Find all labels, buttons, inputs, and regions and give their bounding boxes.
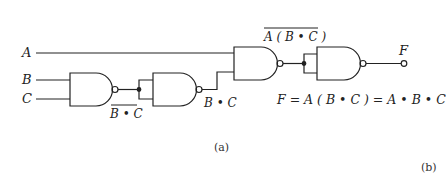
- gate3-output-label: A ( B • C ): [264, 31, 326, 43]
- output-equation: F = A ( B • C ) = A • B • C: [277, 94, 446, 107]
- caption-a: (a): [214, 142, 229, 153]
- nand-gate-3: [234, 47, 278, 80]
- gate1-output-label: B • C: [110, 108, 143, 120]
- input-label-b: B: [22, 73, 32, 86]
- nand-gate-4: [317, 47, 361, 80]
- caption-b: (b): [421, 162, 437, 173]
- nand-gate-1: [70, 73, 113, 106]
- wire-g2-out: [202, 72, 234, 90]
- input-label-a: A: [22, 46, 31, 59]
- nand-gate-2: [153, 73, 197, 106]
- output-terminal: [401, 61, 407, 67]
- input-label-c: C: [22, 92, 32, 105]
- output-label-f: F: [399, 44, 408, 57]
- gate2-output-label: B • C: [204, 97, 237, 109]
